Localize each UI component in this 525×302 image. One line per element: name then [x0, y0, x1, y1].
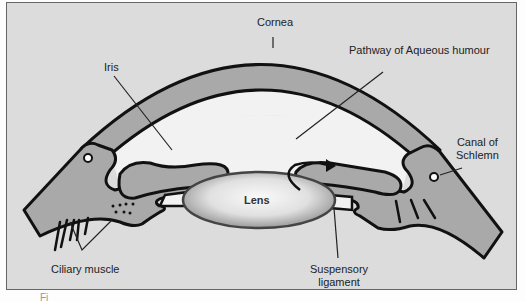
canal-label-line2: Schlemn — [456, 149, 499, 162]
canal-label-line1: Canal of — [456, 136, 499, 149]
canal-of-schlemn-label: Canal of Schlemn — [456, 136, 499, 162]
lens-label: Lens — [244, 194, 270, 207]
figure-caption-fragment: Fi — [40, 292, 48, 302]
suspensory-label-line1: Suspensory — [310, 263, 368, 276]
right-canal-of-schlemm — [430, 173, 438, 181]
cornea-label: Cornea — [257, 16, 293, 29]
suspensory-ligament-label: Suspensory ligament — [310, 263, 368, 289]
pathway-label: Pathway of Aqueous humour — [349, 44, 490, 57]
suspensory-label-line2: ligament — [310, 276, 368, 289]
iris-label: Iris — [104, 61, 119, 74]
left-canal-of-schlemm — [84, 154, 92, 162]
suspensory-leader — [334, 208, 338, 258]
ciliary-muscle-label: Ciliary muscle — [51, 263, 119, 276]
